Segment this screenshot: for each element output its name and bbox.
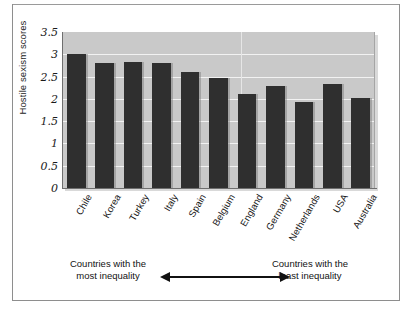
x-axis-label-england: England: [234, 190, 261, 226]
y-tick-label: 2: [18, 94, 58, 105]
x-axis-label-usa: USA: [327, 190, 346, 213]
bar-belgium: [209, 78, 228, 189]
top-divider-rule: [12, 4, 400, 5]
x-label-text: Korea: [100, 192, 122, 220]
x-axis-label-germany: Germany: [261, 190, 290, 230]
x-axis-category-labels: ChileKoreaTurkeyItalySpainBelgiumEngland…: [62, 190, 375, 252]
y-tick-label: 2.5: [18, 72, 58, 83]
caption-left-line2: most inequality: [76, 270, 139, 281]
caption-right-line1: Countries with the: [272, 258, 348, 269]
bar-chile: [67, 54, 86, 188]
bar-germany: [266, 86, 285, 189]
x-label-text: Turkey: [127, 192, 151, 223]
bar-usa: [323, 84, 342, 188]
bar-korea: [95, 63, 114, 188]
x-label-text: Spain: [186, 192, 208, 219]
x-label-text: Australia: [350, 192, 378, 230]
caption-most-inequality: Countries with the most inequality: [48, 258, 168, 282]
y-axis-line: [62, 32, 63, 189]
caption-left-line1: Countries with the: [70, 258, 146, 269]
bar-england: [238, 94, 257, 188]
y-tick-label: 1: [18, 138, 58, 149]
bar-netherlands: [295, 102, 314, 188]
x-axis-label-italy: Italy: [158, 190, 176, 211]
x-axis-label-turkey: Turkey: [123, 190, 147, 221]
x-axis-label-belgium: Belgium: [206, 190, 233, 226]
bar-australia: [351, 98, 370, 189]
figure-root: Hostile sexism scores 00.511.522.533.5 C…: [0, 0, 412, 318]
y-tick-label: 0.5: [18, 161, 58, 172]
caption-least-inequality: Countries with the least inequality: [250, 258, 370, 282]
x-axis-label-korea: Korea: [97, 190, 119, 218]
x-label-text: Belgium: [209, 192, 236, 228]
plot-area: [62, 32, 375, 188]
y-axis-tick-labels: 00.511.522.533.5: [14, 32, 58, 189]
gridline: [62, 54, 374, 55]
y-tick-label: 1.5: [18, 116, 58, 127]
x-axis-label-australia: Australia: [347, 190, 375, 228]
y-tick-label: 3.5: [18, 27, 58, 38]
x-axis-label-spain: Spain: [183, 190, 205, 217]
y-tick-label: 3: [18, 49, 58, 60]
x-label-text: Chile: [74, 192, 95, 217]
caption-row: Countries with the most inequality Count…: [22, 258, 390, 292]
x-label-text: USA: [331, 192, 350, 215]
bar-spain: [181, 72, 200, 188]
x-axis-label-chile: Chile: [70, 190, 91, 215]
bar-italy: [152, 63, 171, 188]
caption-right-line2: least inequality: [279, 270, 342, 281]
y-tick-label: 0: [18, 183, 58, 194]
x-label-text: Italy: [161, 192, 179, 213]
bar-turkey: [124, 62, 143, 188]
